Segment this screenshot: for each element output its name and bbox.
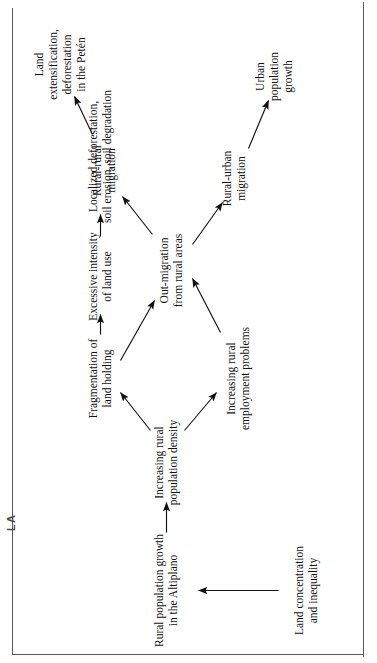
page-frame: GUATEMALA (0, 0, 377, 663)
edge-out-migration-to-rural-urban-migration (192, 202, 222, 244)
edge-fragmentation-to-out-migration (120, 300, 154, 360)
node-land-concentration: Land concentration and inequality (292, 545, 320, 634)
page-rule-right (363, 2, 364, 657)
node-rural-population-growth: Rural population growth in the Altiplano (152, 533, 180, 646)
edge-increasing-density-to-fragmentation (120, 392, 150, 430)
page-rule-left (12, 8, 13, 655)
node-out-migration-from-rural-areas: Out-migration from rural areas (157, 233, 185, 306)
node-increasing-rural-population-density: Increasing rural population density (152, 419, 180, 504)
diagram-canvas: Land concentration and inequality Rural … (16, 12, 361, 652)
node-land-extensification: Land extensification, deforestation in t… (32, 29, 88, 100)
page-rule-bottom (12, 654, 364, 655)
node-excessive-intensity-of-land-use: Excessive intensity of land use (86, 232, 114, 320)
edge-employment-problems-to-out-migration (192, 278, 220, 332)
node-increasing-rural-employment-problems: Increasing rural employment problems (224, 326, 252, 429)
running-head: GUATEMALA (5, 504, 17, 604)
node-rural-urban-migration: Rural-urban migration (220, 150, 248, 206)
edge-increasing-density-to-employment-problems (184, 392, 216, 430)
node-urban-population-growth: Urban population growth (253, 44, 295, 108)
node-fragmentation-of-land-holding: Fragmentation of land holding (86, 338, 114, 418)
edge-out-migration-to-rural-rural-migration (122, 196, 152, 234)
node-rural-rural-migration: Rural-rural migration (90, 144, 118, 195)
